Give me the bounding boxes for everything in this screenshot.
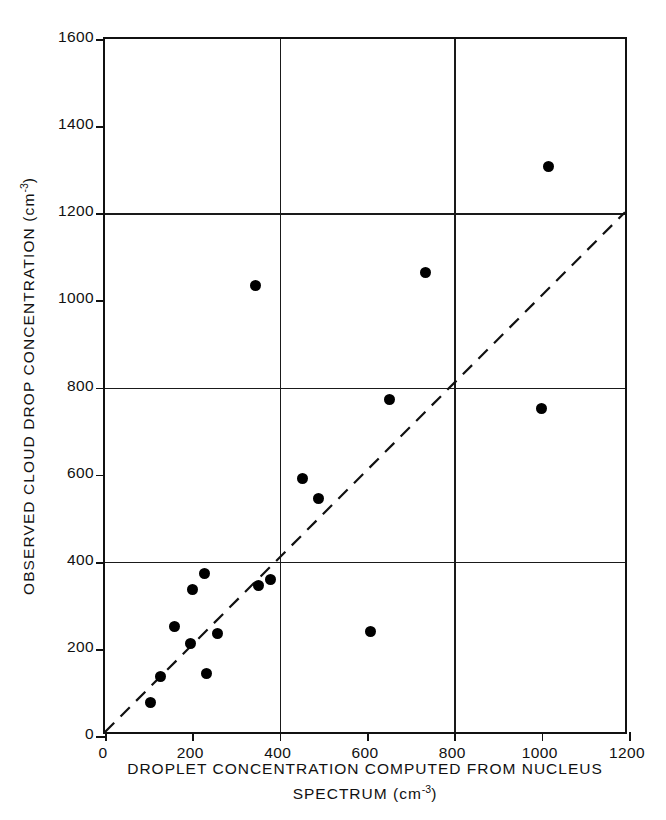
x-tick-600 xyxy=(367,732,369,741)
y-axis-label-suffix: ) xyxy=(20,176,37,182)
y-ticklabel-400: 400 xyxy=(0,551,94,569)
x-tick-0 xyxy=(105,732,107,741)
y-ticklabel-800: 800 xyxy=(0,377,94,395)
data-point xyxy=(313,493,324,504)
x-axis-label-line2-suffix: ) xyxy=(431,785,437,802)
y-tick-0 xyxy=(96,736,105,738)
x-axis-label-line1: DROPLET CONCENTRATION COMPUTED FROM NUCL… xyxy=(127,760,603,777)
x-tick-1000 xyxy=(542,732,544,741)
y-tick-1200 xyxy=(96,213,105,215)
data-point xyxy=(212,628,223,639)
gridline-y-800 xyxy=(105,388,625,389)
x-tick-1200 xyxy=(629,732,631,741)
x-axis-label-line2-prefix: SPECTRUM (cm xyxy=(293,785,422,802)
y-ticklabel-1400: 1400 xyxy=(0,115,94,133)
data-point xyxy=(543,161,554,172)
scatter-plot-figure: OBSERVED CLOUD DROP CONCENTRATION (cm-3) xyxy=(0,0,666,820)
data-point xyxy=(365,626,376,637)
gridline-x-400 xyxy=(280,39,281,732)
data-point xyxy=(199,568,210,579)
y-tick-200 xyxy=(96,649,105,651)
data-point xyxy=(145,697,156,708)
data-point xyxy=(169,621,180,632)
data-point xyxy=(201,668,212,679)
data-point xyxy=(155,671,166,682)
y-ticklabel-600: 600 xyxy=(0,464,94,482)
data-point xyxy=(253,580,264,591)
data-point xyxy=(384,394,395,405)
plot-area xyxy=(105,39,625,732)
x-tick-800 xyxy=(454,732,456,741)
plot-frame xyxy=(103,37,627,734)
data-point xyxy=(297,473,308,484)
data-point xyxy=(420,267,431,278)
data-point xyxy=(536,403,547,414)
data-point xyxy=(250,280,261,291)
gridline-x-800 xyxy=(454,39,455,732)
data-point xyxy=(265,574,276,585)
y-ticklabel-1000: 1000 xyxy=(0,289,94,307)
y-tick-1400 xyxy=(96,126,105,128)
x-tick-400 xyxy=(280,732,282,741)
y-axis-label-exponent: -3 xyxy=(18,183,30,192)
data-point xyxy=(187,584,198,595)
y-tick-1600 xyxy=(96,39,105,41)
y-tick-600 xyxy=(96,475,105,477)
y-ticklabel-0: 0 xyxy=(0,725,94,743)
y-ticklabel-1200: 1200 xyxy=(0,202,94,220)
y-tick-800 xyxy=(96,388,105,390)
y-ticklabel-1600: 1600 xyxy=(0,28,94,46)
x-axis-label-exponent: -3 xyxy=(422,783,431,795)
y-ticklabel-200: 200 xyxy=(0,638,94,656)
gridline-y-1200 xyxy=(105,213,625,214)
y-tick-400 xyxy=(96,562,105,564)
x-axis-label: DROPLET CONCENTRATION COMPUTED FROM NUCL… xyxy=(103,758,627,804)
x-tick-200 xyxy=(192,732,194,741)
data-point xyxy=(185,638,196,649)
y-tick-1000 xyxy=(96,300,105,302)
gridline-y-400 xyxy=(105,562,625,563)
